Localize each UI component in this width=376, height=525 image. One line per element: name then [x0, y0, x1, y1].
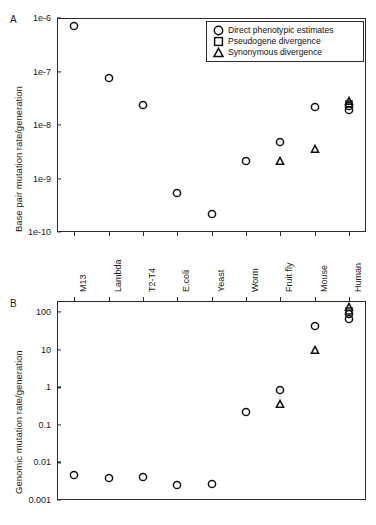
- panel-a-letter: A: [10, 14, 17, 25]
- data-point-circle: [172, 188, 182, 198]
- y-tick-mark: [57, 349, 61, 350]
- data-point-circle: [104, 73, 114, 83]
- x-tick-label: Worm: [250, 268, 260, 292]
- data-point-circle: [138, 100, 148, 110]
- data-point-circle: [310, 102, 320, 112]
- x-tick-mark: [315, 232, 316, 236]
- x-tick-mark: [177, 232, 178, 236]
- y-tick-label: 1e-9: [33, 174, 51, 184]
- circle-marker-icon: [211, 25, 225, 36]
- legend-entry-1: Pseudogene divergence: [211, 36, 358, 47]
- data-point-circle: [241, 407, 251, 417]
- legend-entry-2: Synonymous divergence: [211, 47, 358, 58]
- legend-label-1: Pseudogene divergence: [225, 36, 321, 47]
- data-point-circle: [69, 470, 79, 480]
- data-point-circle: [275, 137, 285, 147]
- y-tick-mark: [57, 424, 61, 425]
- x-tick-label: Human: [353, 263, 363, 292]
- data-point-circle: [172, 480, 182, 490]
- x-tick-label: E.coli: [181, 270, 191, 292]
- x-tick-mark: [246, 232, 247, 236]
- data-point-triangle: [344, 96, 354, 106]
- data-point-triangle: [310, 144, 320, 154]
- triangle-marker-icon: [211, 47, 225, 58]
- legend-label-2: Synonymous divergence: [225, 47, 322, 58]
- data-point-circle: [69, 21, 79, 31]
- data-point-circle: [104, 473, 114, 483]
- x-tick-label: Fruit fly: [284, 262, 294, 292]
- data-point-circle: [207, 209, 217, 219]
- x-tick-label: M13: [78, 274, 88, 292]
- data-point-triangle: [344, 302, 354, 312]
- panel-b-letter: B: [10, 298, 17, 309]
- x-tick-label: Lambda: [113, 259, 123, 292]
- y-tick-mark: [57, 499, 61, 500]
- y-tick-mark: [57, 312, 61, 313]
- y-tick-label: 100: [36, 307, 51, 317]
- legend-label-0: Direct phenotypic estimates: [225, 25, 334, 36]
- x-tick-mark: [212, 232, 213, 236]
- panel-a-y-axis-title: Base pair mutation rate/generation: [13, 86, 24, 232]
- x-tick-mark: [109, 232, 110, 236]
- y-tick-mark: [57, 17, 61, 18]
- data-point-triangle: [275, 400, 285, 410]
- data-point-circle: [241, 157, 251, 167]
- y-tick-mark: [57, 462, 61, 463]
- x-tick-mark: [74, 232, 75, 236]
- data-point-circle: [344, 314, 354, 324]
- y-tick-label: 10: [41, 345, 51, 355]
- y-tick-label: 0.1: [38, 420, 51, 430]
- data-point-circle: [310, 322, 320, 332]
- y-tick-mark: [57, 178, 61, 179]
- square-marker-icon: [211, 36, 225, 47]
- data-point-triangle: [275, 157, 285, 167]
- y-tick-label: 1e-10: [28, 227, 51, 237]
- panel-b-plot-frame: [57, 301, 366, 500]
- x-tick-label: Mouse: [319, 265, 329, 292]
- y-tick-label: 1e-6: [33, 13, 51, 23]
- x-tick-label: T2-T4: [147, 268, 157, 292]
- y-tick-label: 1e-8: [33, 120, 51, 130]
- y-tick-mark: [57, 231, 61, 232]
- y-tick-mark: [57, 387, 61, 388]
- y-tick-mark: [57, 124, 61, 125]
- x-tick-mark: [143, 232, 144, 236]
- data-point-circle: [275, 385, 285, 395]
- x-tick-label: Yeast: [216, 270, 226, 292]
- data-point-circle: [207, 479, 217, 489]
- y-tick-label: 0.001: [28, 495, 51, 505]
- x-tick-mark: [349, 232, 350, 236]
- data-point-circle: [138, 472, 148, 482]
- data-point-triangle: [310, 345, 320, 355]
- x-tick-mark: [280, 232, 281, 236]
- y-tick-mark: [57, 71, 61, 72]
- panel-b-y-axis-title: Genomic mutation rate/generation: [13, 350, 24, 494]
- legend-entry-0: Direct phenotypic estimates: [211, 25, 358, 36]
- legend: Direct phenotypic estimates Pseudogene d…: [206, 21, 364, 62]
- y-tick-label: 0.01: [33, 457, 51, 467]
- y-tick-label: 1: [46, 382, 51, 392]
- y-tick-label: 1e-7: [33, 67, 51, 77]
- figure-root: A Base pair mutation rate/generation 1e-…: [0, 0, 376, 525]
